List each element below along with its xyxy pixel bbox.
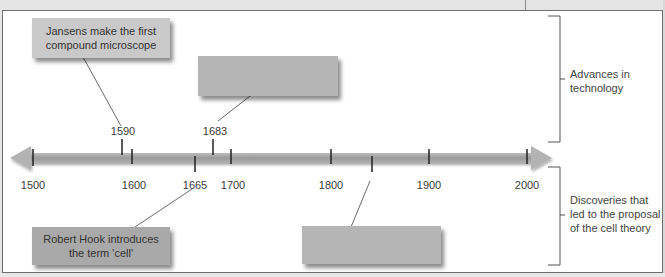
- event-year-1683: 1683: [203, 125, 227, 137]
- bracket-label-discoveries: Discoveries that led to the proposal of …: [570, 193, 661, 235]
- left-arrowhead-icon: [10, 146, 31, 170]
- event-box-jansens-microscope: Jansens make the first compound microsco…: [32, 18, 170, 58]
- event-text: Robert Hook introduces the term 'cell': [43, 232, 159, 260]
- event-text: Jansens make the first compound microsco…: [46, 24, 157, 52]
- tick-label-1600: 1600: [122, 179, 146, 191]
- tick-label-2000: 2000: [515, 179, 539, 191]
- event-year-1590: 1590: [111, 125, 135, 137]
- event-box-1683-blank[interactable]: [198, 56, 338, 96]
- event-box-1839-blank[interactable]: [302, 226, 441, 264]
- event-box-hook-cell: Robert Hook introduces the term 'cell': [32, 227, 170, 265]
- brackets: [548, 16, 565, 265]
- timeline-arrow: [10, 146, 552, 170]
- event-year-1665: 1665: [183, 179, 207, 191]
- right-arrowhead-icon: [531, 146, 552, 170]
- bracket-label-technology: Advances in technology: [570, 67, 630, 95]
- tick-label-1700: 1700: [221, 179, 245, 191]
- tick-label-1800: 1800: [319, 179, 343, 191]
- tick-label-1500: 1500: [21, 179, 45, 191]
- tick-label-1900: 1900: [417, 179, 441, 191]
